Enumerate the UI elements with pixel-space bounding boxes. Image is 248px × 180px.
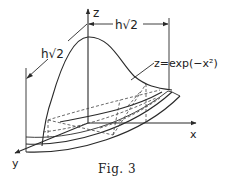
left-dimension-line-upper: [68, 24, 87, 41]
top-dimension-arrow-left: [88, 22, 94, 26]
base-right-edge: [172, 92, 180, 96]
figure-caption: Fig. 3: [98, 162, 136, 176]
top-dimension-label: h√2: [115, 18, 138, 32]
surface-label-leader: [131, 63, 154, 80]
base-right-top: [168, 91, 172, 92]
y-axis-label: y: [12, 157, 19, 170]
surface-label: z=exp(−x²): [154, 57, 218, 70]
x-axis-label: x: [190, 128, 197, 141]
hidden-line-1: [48, 90, 160, 120]
z-axis-label: z: [93, 6, 99, 20]
left-dimension-label: h√2: [41, 47, 64, 61]
figure-diagram: z x y h√2 h√2 z=exp(−x²) Fig. 3: [0, 0, 248, 180]
